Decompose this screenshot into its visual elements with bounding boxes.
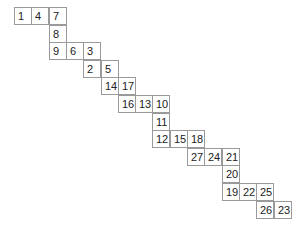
grid-cell: 11 bbox=[152, 113, 170, 131]
grid-cell: 24 bbox=[204, 148, 222, 166]
grid-cell: 10 bbox=[152, 95, 170, 113]
grid-cell: 1 bbox=[14, 7, 32, 25]
grid-cell: 6 bbox=[66, 42, 84, 60]
grid-cell: 17 bbox=[118, 77, 136, 95]
grid-cell: 14 bbox=[101, 77, 119, 95]
grid-cell: 16 bbox=[118, 95, 136, 113]
grid-cell: 26 bbox=[256, 201, 274, 219]
grid-cell: 12 bbox=[152, 130, 170, 148]
grid-cell: 13 bbox=[135, 95, 153, 113]
grid-cell: 8 bbox=[49, 25, 67, 43]
grid-cell: 2 bbox=[83, 60, 101, 78]
grid-cell: 21 bbox=[222, 148, 240, 166]
grid-cell: 25 bbox=[256, 183, 274, 201]
grid-cell: 5 bbox=[101, 60, 119, 78]
grid-cell: 3 bbox=[83, 42, 101, 60]
number-grid-diagram: 1478963251417161310111215182724212019222… bbox=[0, 0, 301, 227]
grid-cell: 22 bbox=[239, 183, 257, 201]
grid-cell: 27 bbox=[187, 148, 205, 166]
grid-cell: 23 bbox=[274, 201, 292, 219]
grid-cell: 7 bbox=[49, 7, 67, 25]
grid-cell: 19 bbox=[222, 183, 240, 201]
grid-cell: 18 bbox=[187, 130, 205, 148]
grid-cell: 15 bbox=[170, 130, 188, 148]
grid-cell: 9 bbox=[49, 42, 67, 60]
grid-cell: 20 bbox=[222, 165, 240, 183]
grid-cell: 4 bbox=[31, 7, 49, 25]
